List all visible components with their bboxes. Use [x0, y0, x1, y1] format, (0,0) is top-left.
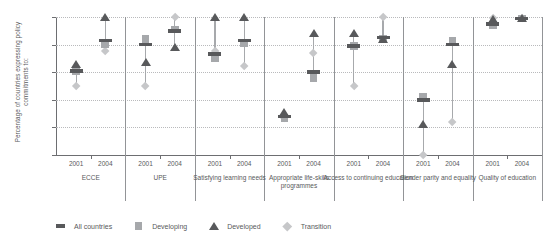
gridline	[56, 100, 542, 101]
legend-item-all-countries[interactable]: All countries	[56, 223, 112, 230]
data-point-all-countries[interactable]	[417, 98, 430, 102]
data-point-all-countries[interactable]	[307, 70, 320, 74]
x-axis-year-label: 2004	[294, 160, 334, 167]
y-tick-mark	[52, 72, 56, 73]
developed-swatch-icon	[209, 222, 223, 230]
data-point-all-countries[interactable]	[168, 29, 181, 33]
legend-label: Developing	[152, 223, 187, 230]
legend-item-transition[interactable]: Transition	[283, 223, 331, 230]
legend-item-developed[interactable]: Developed	[209, 222, 260, 230]
x-axis-year-label: 2004	[85, 160, 125, 167]
y-tick-mark	[52, 45, 56, 46]
x-axis-year-label: 2004	[363, 160, 403, 167]
plot-area	[56, 17, 542, 156]
legend-label: Developed	[227, 223, 260, 230]
legend-label: All countries	[74, 223, 112, 230]
x-tick-mark	[438, 155, 439, 159]
data-point-all-countries[interactable]	[99, 39, 112, 43]
x-tick-mark	[507, 155, 508, 159]
legend-label: Transition	[301, 223, 331, 230]
data-point-developed[interactable]	[418, 120, 428, 128]
data-point-all-countries[interactable]	[238, 39, 251, 43]
data-point-developed[interactable]	[141, 58, 151, 66]
data-point-all-countries[interactable]	[139, 43, 152, 47]
gridline	[56, 72, 542, 73]
data-point-developing[interactable]	[310, 74, 318, 82]
x-axis-category-label: Quality of education	[461, 174, 549, 182]
developing-swatch-icon	[134, 222, 148, 230]
x-tick-mark	[299, 155, 300, 159]
data-point-developing[interactable]	[142, 35, 150, 43]
data-point-all-countries[interactable]	[515, 17, 528, 21]
x-axis-year-label: 2004	[224, 160, 264, 167]
data-point-developed[interactable]	[239, 13, 249, 21]
chart-legend: All countries Developing Developed Trans…	[56, 222, 353, 230]
data-point-developed[interactable]	[309, 29, 319, 37]
data-point-all-countries[interactable]	[278, 115, 291, 119]
data-point-developed[interactable]	[210, 13, 220, 21]
y-axis-title: Percentage of countries expressing polic…	[14, 7, 30, 157]
gridline	[56, 17, 542, 18]
data-point-all-countries[interactable]	[446, 43, 459, 47]
transition-swatch-icon	[283, 223, 297, 230]
x-axis-year-label: 2004	[502, 160, 542, 167]
all-countries-swatch-icon	[56, 224, 70, 228]
range-connector	[452, 40, 453, 121]
data-point-developed[interactable]	[447, 60, 457, 68]
data-point-developed[interactable]	[170, 43, 180, 51]
gridline	[56, 127, 542, 128]
legend-item-developing[interactable]: Developing	[134, 222, 187, 230]
chart-container: Percentage of countries expressing polic…	[0, 0, 549, 244]
data-point-all-countries[interactable]	[70, 69, 83, 73]
x-axis-year-label: 2004	[155, 160, 195, 167]
x-tick-mark	[160, 155, 161, 159]
data-point-all-countries[interactable]	[208, 52, 221, 56]
y-tick-mark	[52, 17, 56, 18]
data-point-developed[interactable]	[349, 29, 359, 37]
y-tick-mark	[52, 100, 56, 101]
y-tick-mark	[52, 155, 56, 156]
data-point-developed[interactable]	[100, 13, 110, 21]
data-point-all-countries[interactable]	[347, 44, 360, 48]
x-tick-mark	[230, 155, 231, 159]
data-point-all-countries[interactable]	[377, 36, 390, 40]
data-point-all-countries[interactable]	[486, 22, 499, 26]
y-tick-mark	[52, 127, 56, 128]
x-tick-mark	[91, 155, 92, 159]
data-point-developed[interactable]	[71, 60, 81, 68]
x-axis-year-label: 2004	[432, 160, 472, 167]
x-tick-mark	[368, 155, 369, 159]
gridline	[56, 45, 542, 46]
